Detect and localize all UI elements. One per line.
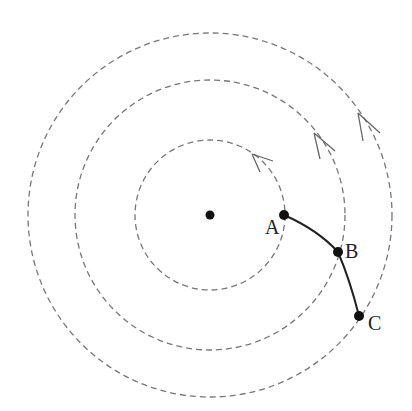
label-c: C [368,313,381,333]
center-point [206,211,215,220]
point-c [354,311,364,321]
label-a: A [265,217,279,237]
diagram-canvas [0,0,412,411]
point-b [333,247,343,257]
point-a [279,210,289,220]
arrow-icon-middle [314,133,335,159]
trajectory-path [284,215,359,316]
label-b: B [345,241,358,261]
